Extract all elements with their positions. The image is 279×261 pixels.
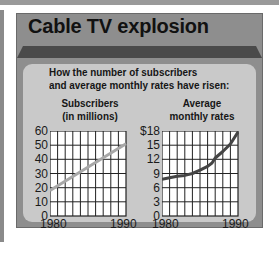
- top-border: [0, 0, 279, 5]
- subscribers-title-2: (in millions): [54, 110, 126, 123]
- chart-title: Cable TV explosion: [28, 15, 209, 38]
- y-tick: 50: [18, 139, 48, 151]
- y-tick: 20: [18, 182, 48, 194]
- subscribers-title-1: Subscribers: [54, 97, 126, 110]
- y-tick: 60: [18, 125, 48, 137]
- x-tick: 1990: [110, 218, 137, 230]
- y-tick: 10: [18, 196, 48, 208]
- x-tick: 1980: [152, 218, 179, 230]
- header-stripe: [17, 46, 262, 58]
- subscribers-plot: [50, 131, 127, 217]
- x-tick: 1980: [40, 218, 67, 230]
- y-tick: 6: [130, 182, 160, 194]
- subtitle-line-1: How the number of subscribers: [49, 66, 279, 79]
- rates-plot: [162, 131, 239, 217]
- y-tick: 9: [130, 168, 160, 180]
- subtitle-line-2: and average monthly rates have risen:: [49, 79, 279, 92]
- y-tick: 3: [130, 196, 160, 208]
- y-tick: 12: [130, 153, 160, 165]
- y-tick: 15: [130, 139, 160, 151]
- y-tick: $18: [130, 125, 160, 137]
- x-tick: 1990: [222, 218, 249, 230]
- rates-title-1: Average: [166, 97, 238, 110]
- y-tick: 30: [18, 168, 48, 180]
- left-border: [0, 10, 4, 242]
- y-tick: 40: [18, 153, 48, 165]
- rates-title-2: monthly rates: [159, 110, 245, 123]
